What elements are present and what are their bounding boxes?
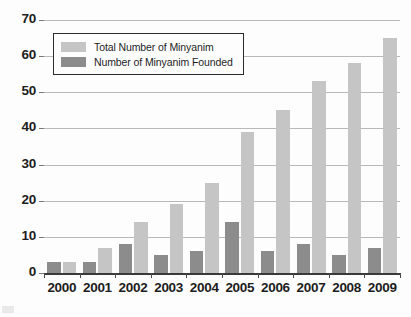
y-tick-label: 60 xyxy=(4,47,36,62)
legend-swatch-total-icon xyxy=(61,42,86,52)
bar-total-2009 xyxy=(383,38,397,273)
bar-founded-2000 xyxy=(47,262,61,273)
bar-founded-2008 xyxy=(332,255,346,273)
legend-item-total: Total Number of Minyanim xyxy=(61,39,233,54)
x-tick-label-2005: 2005 xyxy=(222,280,258,295)
bar-chart: 010203040506070 200020012002200320042005… xyxy=(0,0,411,317)
x-tick-label-2000: 2000 xyxy=(44,280,80,295)
x-tick-label-2001: 2001 xyxy=(80,280,116,295)
bar-total-2003 xyxy=(170,204,184,273)
x-tick-mark xyxy=(329,273,330,278)
y-tick-label: 70 xyxy=(4,11,36,26)
page-artifact xyxy=(2,306,14,313)
bar-founded-2005 xyxy=(225,222,239,273)
x-tick-label-2004: 2004 xyxy=(186,280,222,295)
bar-founded-2001 xyxy=(83,262,97,273)
bar-total-2008 xyxy=(348,63,362,273)
x-tick-mark xyxy=(151,273,152,278)
bar-founded-2002 xyxy=(119,244,133,273)
y-tick-label: 20 xyxy=(4,192,36,207)
legend-label-founded: Number of Minyanim Founded xyxy=(94,56,233,68)
bar-total-2004 xyxy=(205,183,219,273)
bar-total-2005 xyxy=(241,132,255,273)
x-tick-mark xyxy=(293,273,294,278)
bar-total-2002 xyxy=(134,222,148,273)
x-tick-mark xyxy=(364,273,365,278)
bar-total-2006 xyxy=(276,110,290,273)
bar-total-2001 xyxy=(98,248,112,273)
x-tick-label-2008: 2008 xyxy=(329,280,365,295)
bar-total-2007 xyxy=(312,81,326,273)
x-axis-end-cap xyxy=(44,273,45,278)
y-tick-label: 40 xyxy=(4,119,36,134)
chart-legend: Total Number of Minyanim Number of Minya… xyxy=(53,33,244,75)
x-tick-mark xyxy=(258,273,259,278)
legend-swatch-founded-icon xyxy=(61,57,86,67)
legend-label-total: Total Number of Minyanim xyxy=(94,41,214,53)
x-tick-mark xyxy=(115,273,116,278)
bar-founded-2003 xyxy=(154,255,168,273)
x-tick-label-2007: 2007 xyxy=(293,280,329,295)
bar-founded-2009 xyxy=(368,248,382,273)
x-tick-label-2003: 2003 xyxy=(151,280,187,295)
x-tick-label-2009: 2009 xyxy=(364,280,400,295)
bar-founded-2004 xyxy=(190,251,204,273)
y-tick-label: 50 xyxy=(4,83,36,98)
bar-total-2000 xyxy=(63,262,77,273)
x-tick-label-2006: 2006 xyxy=(258,280,294,295)
x-tick-mark xyxy=(80,273,81,278)
y-tick-label: 0 xyxy=(4,264,36,279)
legend-item-founded: Number of Minyanim Founded xyxy=(61,54,233,69)
bar-founded-2006 xyxy=(261,251,275,273)
x-tick-mark xyxy=(186,273,187,278)
x-tick-mark xyxy=(222,273,223,278)
x-axis-end-cap xyxy=(400,273,401,278)
y-tick-label: 30 xyxy=(4,156,36,171)
bar-founded-2007 xyxy=(297,244,311,273)
x-tick-label-2002: 2002 xyxy=(115,280,151,295)
y-tick-label: 10 xyxy=(4,228,36,243)
